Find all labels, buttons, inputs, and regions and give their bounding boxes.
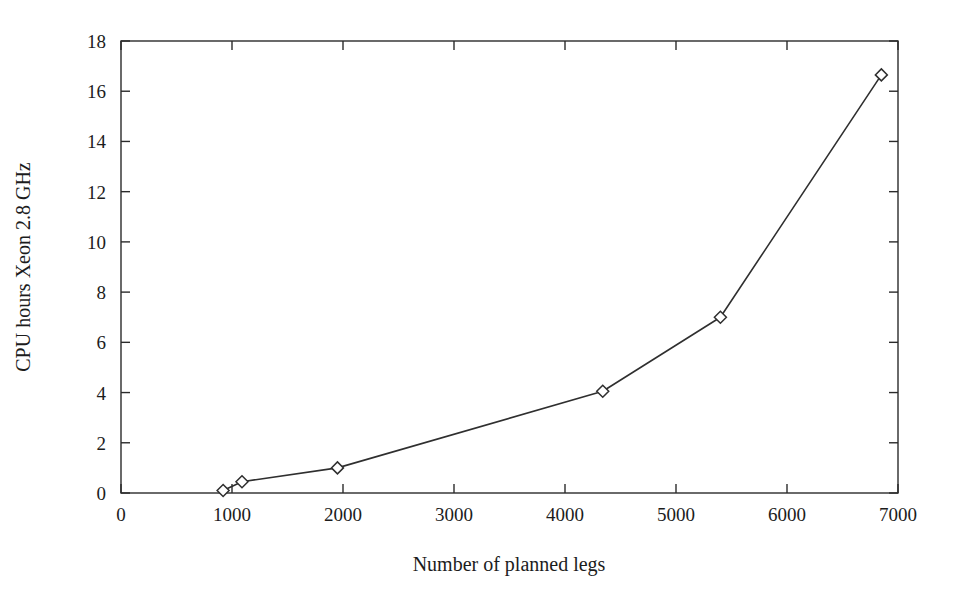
data-point-marker	[875, 69, 887, 81]
x-tick-label: 7000	[879, 504, 917, 525]
data-series-cpu-hours	[217, 69, 887, 497]
x-tick-label: 3000	[435, 504, 473, 525]
y-tick-label: 10	[87, 232, 106, 253]
data-point-marker	[331, 462, 343, 474]
y-tick-label: 14	[87, 131, 107, 152]
chart-figure: 01000200030004000500060007000 0246810121…	[0, 0, 953, 607]
plot-frame	[121, 41, 898, 493]
data-point-marker	[217, 484, 229, 496]
x-tick-label: 2000	[324, 504, 362, 525]
y-tick-label: 0	[97, 483, 107, 504]
tick-marks	[121, 41, 898, 493]
line-chart: 01000200030004000500060007000 0246810121…	[0, 0, 953, 607]
y-tick-label: 12	[87, 182, 106, 203]
x-tick-label: 1000	[213, 504, 251, 525]
y-tick-label: 18	[87, 31, 106, 52]
data-point-marker	[714, 311, 726, 323]
series-markers	[217, 69, 887, 497]
x-axis-title: Number of planned legs	[413, 553, 606, 576]
y-tick-label: 8	[97, 282, 107, 303]
x-tick-label: 4000	[546, 504, 584, 525]
y-tick-label: 2	[97, 433, 107, 454]
y-tick-label: 16	[87, 81, 106, 102]
x-axis-tick-labels: 01000200030004000500060007000	[116, 504, 917, 525]
data-point-marker	[597, 385, 609, 397]
data-point-marker	[236, 476, 248, 488]
x-tick-label: 0	[116, 504, 126, 525]
y-axis-tick-labels: 024681012141618	[87, 31, 107, 504]
y-tick-label: 6	[97, 332, 107, 353]
x-tick-label: 6000	[768, 504, 806, 525]
y-axis-title: CPU hours Xeon 2.8 GHz	[12, 162, 34, 372]
series-line	[223, 75, 881, 491]
y-tick-label: 4	[97, 383, 107, 404]
x-tick-label: 5000	[657, 504, 695, 525]
